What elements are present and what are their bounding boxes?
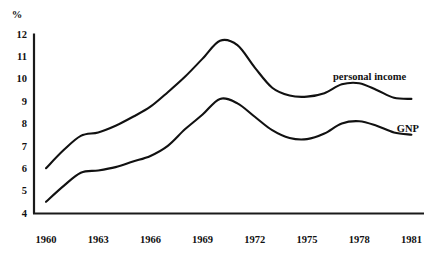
line-chart: % 12 11 10 9 8 7 6 5 4 1960 1963 1966 19… <box>0 0 427 262</box>
x-tick-label-1969: 1969 <box>192 234 213 245</box>
y-tick-label-8: 8 <box>22 118 27 129</box>
personal-income-label: personal income <box>333 71 407 82</box>
series-line-gnp <box>46 98 411 201</box>
y-tick-label-4: 4 <box>22 208 28 219</box>
y-tick-label-5: 5 <box>22 185 27 196</box>
gnp-label: GNP <box>397 123 420 134</box>
y-tick-label-9: 9 <box>22 96 27 107</box>
y-tick-label-10: 10 <box>17 73 28 84</box>
x-tick-label-1981: 1981 <box>401 234 422 245</box>
y-tick-label-12: 12 <box>17 29 28 40</box>
y-tick-label-6: 6 <box>22 163 27 174</box>
x-tick-label-1963: 1963 <box>88 234 109 245</box>
x-tick-label-1972: 1972 <box>244 234 265 245</box>
y-tick-label-11: 11 <box>17 51 27 62</box>
series-line-personal-income <box>46 40 411 168</box>
x-tick-label-1978: 1978 <box>349 234 370 245</box>
x-tick-label-1960: 1960 <box>36 234 57 245</box>
x-tick-label-1966: 1966 <box>140 234 161 245</box>
y-tick-label-7: 7 <box>22 141 27 152</box>
y-axis-unit-label: % <box>12 9 23 20</box>
x-tick-label-1975: 1975 <box>297 234 318 245</box>
chart-container: % 12 11 10 9 8 7 6 5 4 1960 1963 1966 19… <box>0 0 427 262</box>
